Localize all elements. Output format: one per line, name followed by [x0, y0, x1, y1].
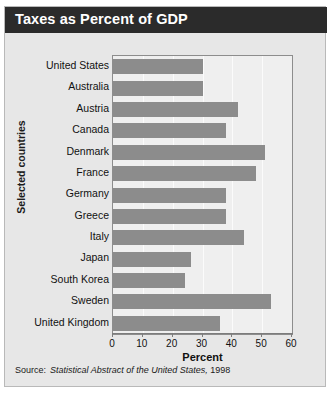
chart-page: Taxes as Percent of GDP Selected countri…	[0, 0, 332, 399]
x-tick-label: 40	[218, 338, 244, 349]
chart-title: Taxes as Percent of GDP	[15, 11, 188, 27]
x-tick	[112, 333, 113, 337]
x-tick-label: 20	[159, 338, 185, 349]
category-label: Australia	[68, 76, 109, 97]
chart-title-bar: Taxes as Percent of GDP	[5, 7, 327, 33]
x-tick	[291, 333, 292, 337]
bar	[113, 102, 238, 117]
category-label: United States	[46, 55, 109, 76]
x-tick-label: 50	[248, 338, 274, 349]
chart-region: Selected countries United StatesAustrali…	[5, 33, 327, 359]
plot-inner	[113, 56, 292, 334]
x-tick-label: 30	[189, 338, 215, 349]
source-publication: Statistical Abstract of the United State…	[46, 365, 208, 375]
x-axis-line	[112, 333, 293, 334]
x-tick-label: 60	[278, 338, 304, 349]
x-axis-title: Percent	[112, 351, 293, 363]
category-label-list: United StatesAustraliaAustriaCanadaDenma…	[19, 55, 109, 333]
category-label: Denmark	[66, 141, 109, 162]
x-tick	[231, 333, 232, 337]
bar	[113, 294, 271, 309]
x-tick	[261, 333, 262, 337]
category-label: Canada	[72, 119, 109, 140]
bar	[113, 316, 220, 331]
category-label: Japan	[80, 247, 109, 268]
bar	[113, 188, 226, 203]
bar	[113, 123, 226, 138]
category-label: United Kingdom	[34, 312, 109, 333]
category-label: Germany	[66, 183, 109, 204]
gridline	[262, 56, 263, 334]
chart-card: Taxes as Percent of GDP Selected countri…	[4, 6, 326, 387]
x-tick-label: 10	[129, 338, 155, 349]
category-label: Greece	[75, 205, 109, 226]
category-label: South Korea	[51, 269, 109, 290]
bar	[113, 252, 191, 267]
bar	[113, 230, 244, 245]
category-label: Austria	[76, 98, 109, 119]
bar	[113, 59, 203, 74]
bar	[113, 81, 203, 96]
bar	[113, 145, 265, 160]
x-tick	[142, 333, 143, 337]
gridline	[232, 56, 233, 334]
category-label: France	[76, 162, 109, 183]
category-label: Italy	[90, 226, 109, 247]
source-label: Source:	[15, 365, 46, 375]
source-note: Source:Statistical Abstract of the Unite…	[15, 365, 230, 375]
bar	[113, 209, 226, 224]
x-tick	[172, 333, 173, 337]
bar	[113, 273, 185, 288]
bar	[113, 166, 256, 181]
plot-area	[112, 55, 293, 335]
category-label: Sweden	[71, 290, 109, 311]
x-tick	[202, 333, 203, 337]
source-year: 1998	[210, 365, 230, 375]
x-tick-label: 0	[99, 338, 125, 349]
